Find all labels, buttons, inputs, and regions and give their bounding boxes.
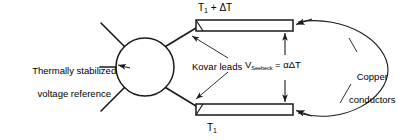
lead-lower-right-kovar — [166, 88, 197, 107]
top-terminal-block — [196, 20, 293, 31]
kovar-leader-bottom — [196, 72, 228, 99]
lead-upper-left — [101, 23, 125, 47]
seebeck-subscript: Seebeck — [251, 65, 272, 71]
kovar-leads-label: Kovar leads — [192, 61, 242, 72]
voltage-reference-caption: Thermally stabilized voltage reference — [8, 54, 130, 110]
thermocouple-reference-diagram: Thermally stabilized voltage reference K… — [0, 0, 399, 140]
copper-leader-upper — [349, 38, 357, 52]
temperature-bottom-label: T1 — [207, 122, 217, 134]
seebeck-equation: = αΔT — [272, 59, 300, 70]
temp-bottom-subscript: 1 — [213, 127, 217, 134]
temperature-top-label: T1 + ΔT — [198, 2, 232, 14]
seebeck-voltage-label: VSeebeck = αΔT — [245, 59, 301, 70]
copper-label-line1: Copper — [357, 71, 388, 82]
reference-caption-line1: Thermally stabilized — [32, 65, 116, 76]
lead-upper-right-kovar — [166, 28, 197, 47]
temp-top-delta: + ΔT — [208, 2, 232, 13]
copper-label-line2: conductors — [349, 94, 395, 105]
kovar-leader-top — [192, 36, 228, 58]
reference-caption-line2: voltage reference — [38, 88, 111, 99]
copper-conductors-label: Copper conductors — [337, 60, 397, 116]
temp-top-subscript: 1 — [204, 7, 208, 14]
bottom-terminal-block — [196, 104, 293, 115]
